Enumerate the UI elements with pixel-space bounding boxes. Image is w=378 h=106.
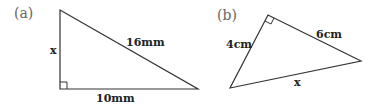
label-a-hypotenuse: 16mm — [126, 36, 165, 49]
triangle-a: (a) x 16mm 10mm — [14, 5, 198, 105]
part-label-a: (a) — [14, 5, 33, 21]
label-b-left: 4cm — [226, 38, 252, 51]
part-label-b: (b) — [217, 7, 237, 23]
triangle-a-shape — [60, 10, 198, 89]
diagram-canvas: (a) x 16mm 10mm (b) 4cm 6cm x — [0, 0, 378, 106]
label-b-hypotenuse: x — [294, 76, 301, 89]
label-a-base: 10mm — [96, 92, 135, 105]
label-a-vertical: x — [50, 44, 57, 57]
triangle-b: (b) 4cm 6cm x — [217, 7, 361, 89]
label-b-right: 6cm — [316, 28, 342, 41]
right-angle-marker-a — [60, 82, 67, 89]
